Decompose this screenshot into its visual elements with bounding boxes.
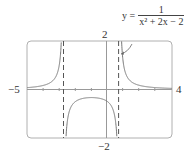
x-max-label: 4 — [176, 84, 182, 95]
curve-middle-branch — [66, 98, 117, 137]
y-max-label: 2 — [102, 29, 108, 40]
equation-fraction: 1 x² + 2x − 2 — [138, 4, 184, 27]
y-min-label: −2 — [98, 141, 110, 152]
x-min-label: −5 — [8, 84, 20, 95]
equation-numerator: 1 — [159, 4, 164, 15]
equation-lhs: y = — [122, 10, 135, 21]
curve-left-branch — [27, 42, 61, 87]
equation-denominator: x² + 2x − 2 — [138, 15, 184, 27]
function-annotation: y = 1 x² + 2x − 2 — [122, 4, 184, 27]
